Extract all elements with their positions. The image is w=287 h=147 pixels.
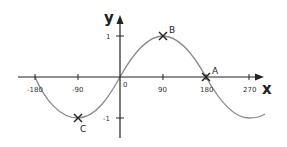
point-c-label: C (80, 124, 86, 134)
sine-graph: -180 -90 0 90 180 270 1 -1 y x A B C (0, 0, 287, 147)
x-tick-label-270: 270 (243, 86, 256, 94)
x-tick-label--90: -90 (72, 86, 83, 94)
point-b-label: B (169, 25, 175, 35)
x-tick-label--180: -180 (27, 86, 43, 94)
y-tick-label-neg1: -1 (103, 115, 110, 123)
x-axis-label: x (262, 80, 272, 98)
x-tick-label-180: 180 (200, 86, 213, 94)
point-a-label: A (212, 66, 219, 76)
y-axis-arrow-icon (117, 15, 124, 24)
x-tick-label-90: 90 (158, 86, 167, 94)
y-tick-label-1: 1 (106, 33, 110, 41)
y-axis-label: y (104, 9, 114, 27)
origin-label: 0 (123, 81, 127, 89)
